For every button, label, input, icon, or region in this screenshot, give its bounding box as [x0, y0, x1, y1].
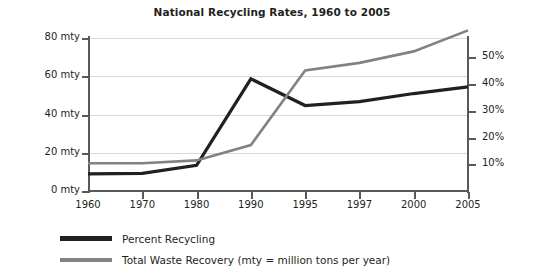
- legend-label-percent-recycling: Percent Recycling: [122, 233, 215, 245]
- chart-container: National Recycling Rates, 1960 to 2005 0…: [0, 0, 544, 278]
- series-line: [88, 79, 468, 174]
- x-axis-tick-mark: [251, 192, 253, 199]
- y-axis-right-tick-label: 30%: [482, 104, 504, 115]
- y-axis-right-tick-label: 50%: [482, 50, 504, 61]
- x-axis-tick-label: 1995: [275, 199, 335, 210]
- y-axis-right-tick-label: 40%: [482, 77, 504, 88]
- y-axis-right-line: [467, 36, 469, 193]
- y-axis-right-tick-mark: [469, 111, 476, 113]
- y-axis-left-tick-label: 0 mty: [18, 184, 80, 195]
- legend-swatch-icon-percent-recycling: [60, 236, 112, 241]
- legend-swatch-icon-total-waste-recovery: [60, 258, 112, 262]
- gridline: [88, 153, 468, 154]
- y-axis-left-tick-label: 20 mty: [18, 146, 80, 157]
- x-axis-tick-mark: [468, 192, 470, 199]
- gridline: [88, 115, 468, 116]
- x-axis-tick-mark: [142, 192, 144, 199]
- y-axis-right-tick-mark: [469, 57, 476, 59]
- chart-legend: Percent Recycling Total Waste Recovery (…: [60, 228, 390, 270]
- x-axis-tick-label: 1970: [112, 199, 172, 210]
- x-axis-tick-label: 2005: [438, 199, 498, 210]
- x-axis-tick-label: 1997: [329, 199, 389, 210]
- gridline: [88, 38, 468, 39]
- series-line: [88, 30, 468, 163]
- y-axis-right-tick-label: 10%: [482, 157, 504, 168]
- chart-title: National Recycling Rates, 1960 to 2005: [0, 6, 544, 18]
- y-axis-right-tick-mark: [469, 138, 476, 140]
- x-axis-tick-label: 1990: [221, 199, 281, 210]
- x-axis-tick-mark: [414, 192, 416, 199]
- legend-label-total-waste-recovery: Total Waste Recovery (mty = million tons…: [122, 254, 390, 266]
- gridline: [88, 76, 468, 77]
- x-axis-tick-label: 1980: [167, 199, 227, 210]
- y-axis-right-tick-label: 20%: [482, 131, 504, 142]
- x-axis-tick-mark: [359, 192, 361, 199]
- legend-item-total-waste-recovery: Total Waste Recovery (mty = million tons…: [60, 249, 390, 270]
- y-axis-left-tick-label: 60 mty: [18, 69, 80, 80]
- y-axis-left-tick-label: 80 mty: [18, 31, 80, 42]
- x-axis-tick-label: 1960: [58, 199, 118, 210]
- x-axis-line: [88, 190, 469, 192]
- x-axis-tick-mark: [197, 192, 199, 199]
- y-axis-left-line: [88, 36, 90, 193]
- y-axis-left-tick-label: 40 mty: [18, 108, 80, 119]
- x-axis-tick-label: 2000: [384, 199, 444, 210]
- x-axis-tick-mark: [305, 192, 307, 199]
- y-axis-right-tick-mark: [469, 84, 476, 86]
- legend-item-percent-recycling: Percent Recycling: [60, 228, 390, 249]
- y-axis-right-tick-mark: [469, 164, 476, 166]
